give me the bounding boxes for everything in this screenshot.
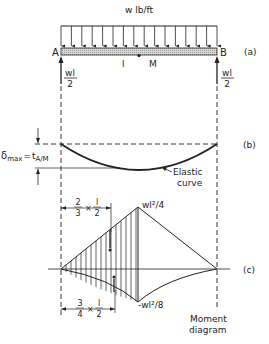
- part-b-label: (b): [243, 140, 256, 150]
- svg-text:2: 2: [75, 198, 80, 207]
- negative-moment-curve-left: [61, 269, 138, 302]
- support-b-label: B: [220, 47, 227, 58]
- midpoint-label: M: [149, 59, 157, 69]
- svg-text:×: ×: [87, 305, 94, 314]
- svg-text:l: l: [98, 299, 100, 308]
- dimension-top: 2 3 × l 2: [61, 198, 111, 232]
- deflection-label: δmax=tA/M: [1, 150, 49, 163]
- negative-peak-label: -wl²/8: [138, 300, 164, 310]
- svg-text:2: 2: [67, 79, 73, 89]
- moment-caption-1: Moment: [190, 314, 227, 324]
- load-label: w lb/ft: [125, 5, 153, 15]
- svg-text:3: 3: [75, 209, 80, 218]
- part-b-elastic-curve: δmax=tA/M Elastic curve (b): [1, 128, 256, 188]
- part-a-beam: w lb/ft A B l M (a): [52, 5, 257, 89]
- svg-text:l: l: [96, 198, 98, 207]
- reaction-left: wl 2: [59, 56, 78, 89]
- negative-moment-curve-right: [138, 269, 217, 302]
- part-a-label: (a): [244, 47, 257, 57]
- svg-text:wl: wl: [222, 68, 232, 78]
- dimension-bottom: 3 4 × l 2: [61, 290, 115, 319]
- svg-text:×: ×: [85, 204, 92, 213]
- centroid-dot-parabola: [113, 276, 116, 279]
- svg-text:2: 2: [94, 209, 99, 218]
- elastic-curve-label-1: Elastic: [173, 167, 202, 177]
- beam-moment-area-diagram: w lb/ft A B l M (a): [0, 0, 269, 344]
- svg-text:2: 2: [224, 79, 230, 89]
- svg-text:3: 3: [77, 299, 82, 308]
- midpoint-dot: [137, 54, 140, 57]
- span-label: l: [122, 59, 125, 69]
- part-c-moment-diagram: 2 3 × l 2 3 4 × l 2 wl²/4 -wl²/8 (c) Mom…: [48, 198, 255, 335]
- positive-moment-triangle: [61, 207, 217, 269]
- elastic-curve-label-2: curve: [177, 178, 203, 188]
- part-c-label: (c): [243, 265, 255, 275]
- centroid-dot-triangle: [109, 249, 112, 252]
- support-a-label: A: [52, 47, 59, 58]
- load-arrows: [61, 26, 217, 46]
- positive-peak-label: wl²/4: [142, 200, 165, 210]
- reaction-right: wl 2: [215, 56, 235, 89]
- moment-caption-2: diagram: [189, 325, 226, 335]
- svg-text:2: 2: [96, 310, 101, 319]
- svg-text:4: 4: [77, 310, 82, 319]
- arrow-down-icon: [36, 138, 40, 143]
- svg-text:wl: wl: [65, 68, 75, 78]
- arrow-up-icon: [36, 169, 40, 174]
